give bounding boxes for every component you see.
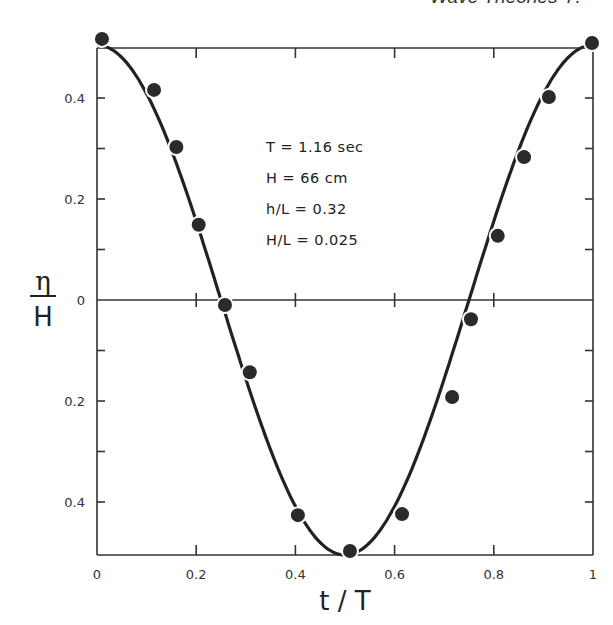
data-point (542, 90, 556, 104)
x-axis-label: t / T (319, 586, 370, 616)
y-tick-label: 0 (77, 293, 85, 308)
chart: 0.40.200.20.400.20.40.60.81 T = 1.16 sec… (0, 0, 613, 625)
data-point (445, 390, 459, 404)
axis-ticks: 0.40.200.20.400.20.40.60.81 (64, 48, 597, 582)
data-point (395, 507, 409, 521)
data-point (192, 218, 206, 232)
data-point (343, 544, 357, 558)
data-point (95, 32, 109, 46)
x-tick-label: 0.4 (285, 567, 306, 582)
data-point (464, 312, 478, 326)
axes-frame (97, 48, 593, 555)
axis-labels: t / TηH (30, 266, 371, 616)
y-tick-label: 0.2 (64, 394, 85, 409)
annotation-line: H = 66 cm (266, 170, 348, 186)
annotation-line: h/L = 0.32 (266, 201, 347, 217)
data-point (243, 365, 257, 379)
data-point (147, 83, 161, 97)
data-point (585, 36, 599, 50)
annotation-line: H/L = 0.025 (266, 232, 358, 248)
data-point (169, 140, 183, 154)
x-tick-label: 0.8 (483, 567, 504, 582)
data-point (218, 298, 232, 312)
x-tick-label: 0.2 (186, 567, 207, 582)
data-points (93, 30, 601, 560)
y-tick-label: 0.2 (64, 192, 85, 207)
data-point (491, 229, 505, 243)
y-tick-label: 0.4 (64, 91, 85, 106)
parameter-annotations: T = 1.16 secH = 66 cmh/L = 0.32H/L = 0.0… (265, 139, 364, 248)
x-tick-label: 0.6 (384, 567, 405, 582)
y-axis-label-denominator: H (33, 302, 53, 332)
x-tick-label: 1 (589, 567, 597, 582)
y-axis-label-numerator: η (35, 266, 51, 296)
data-point (291, 508, 305, 522)
data-point (517, 150, 531, 164)
y-tick-label: 0.4 (64, 495, 85, 510)
annotation-line: T = 1.16 sec (265, 139, 364, 155)
x-tick-label: 0 (93, 567, 101, 582)
